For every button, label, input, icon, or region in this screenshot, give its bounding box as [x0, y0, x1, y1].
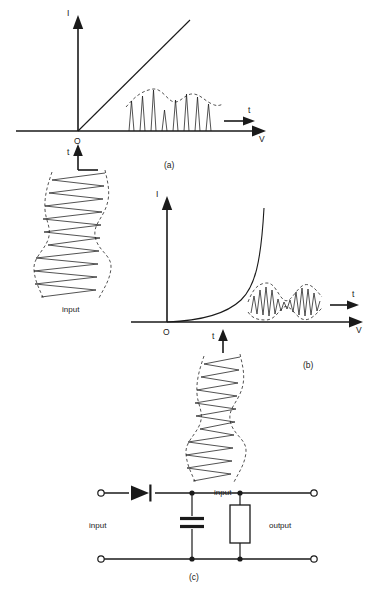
- input-terminal-top[interactable]: [98, 490, 104, 496]
- panel-b-caption: (b): [303, 360, 314, 370]
- panel-a-caption: (a): [164, 160, 175, 170]
- diode-icon: [131, 485, 150, 502]
- panel-b-characteristic-curve: [167, 208, 264, 322]
- panel-a-v-axis: [16, 126, 266, 137]
- panel-b-v-axis: [131, 317, 363, 328]
- circuit-output-label: output: [269, 521, 292, 530]
- panel-a-output-time-arrow: [224, 117, 255, 126]
- panel-b-i-label: I: [156, 189, 158, 199]
- panel-a-v-label: V: [259, 134, 265, 144]
- panel-b-output-time-label: t: [352, 289, 355, 299]
- panel-b-origin-label: O: [163, 327, 170, 337]
- panel-a-output-waveform: [126, 89, 223, 131]
- panel-b-output-time-arrow: [330, 301, 359, 310]
- panel-a-input-time-label: t: [67, 147, 70, 157]
- output-terminal-bottom[interactable]: [311, 556, 317, 562]
- panel-b: t I V O (b) t input: [131, 189, 363, 497]
- panel-c-caption: (c): [189, 572, 199, 582]
- panel-c-circuit: input output (c): [89, 485, 317, 583]
- panel-b-v-label: V: [356, 325, 362, 335]
- figure-root: t I V O (a) t input: [0, 0, 383, 592]
- panel-a-i-label: I: [67, 8, 69, 18]
- panel-a-characteristic-curve: [78, 20, 190, 131]
- panel-a-input-waveform: [34, 170, 111, 300]
- circuit-node-resistor-top: [237, 490, 242, 495]
- circuit-input-label: input: [89, 521, 107, 530]
- output-terminal-top[interactable]: [311, 490, 317, 496]
- panel-a-origin-label: O: [74, 136, 81, 146]
- panel-a-i-axis: [73, 15, 83, 131]
- figure-svg: t I V O (a) t input: [0, 0, 383, 592]
- panel-a-input-label: input: [62, 305, 80, 314]
- panel-a-input-time-arrow: [73, 144, 98, 170]
- panel-b-output-waveform: [248, 283, 322, 320]
- panel-a-output-time-label: t: [248, 105, 251, 115]
- panel-b-input-time-arrow: [218, 329, 228, 353]
- input-terminal-bottom[interactable]: [98, 556, 104, 562]
- resistor-icon: [230, 493, 250, 559]
- panel-b-i-axis: [162, 196, 172, 322]
- panel-b-input-waveform: [186, 354, 246, 484]
- panel-a: t I V O (a) t input: [16, 8, 266, 314]
- panel-b-input-time-label: t: [212, 331, 215, 341]
- circuit-node-capacitor-bottom: [189, 556, 194, 561]
- capacitor-icon: [180, 493, 204, 559]
- circuit-node-resistor-bottom: [237, 556, 242, 561]
- circuit-node-capacitor-top: [189, 490, 194, 495]
